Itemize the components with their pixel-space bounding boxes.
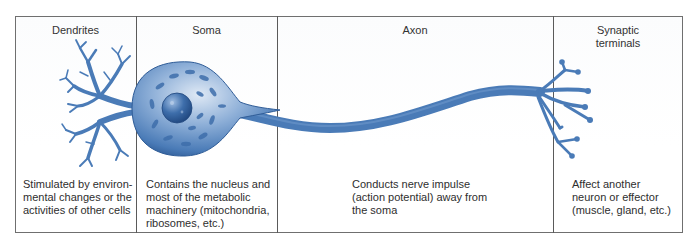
nucleus-shape [162, 93, 192, 123]
terminal-knobs [559, 59, 593, 159]
dendrites-shape [60, 40, 135, 166]
axon-shape [225, 88, 540, 128]
description-synaptic-terminals: Affect another neuron or effector (muscl… [572, 178, 683, 217]
description-soma: Contains the nucleus and most of the met… [146, 178, 277, 230]
description-axon: Conducts nerve impulse (action potential… [352, 178, 552, 217]
soma-shape [132, 62, 280, 156]
synaptic-terminals-shape [538, 62, 590, 156]
header-soma: Soma [136, 24, 277, 37]
header-axon: Axon [277, 24, 553, 37]
header-synaptic-terminals: Synaptic terminals [553, 24, 683, 50]
description-dendrites: Stimulated by environ- mental changes or… [23, 178, 136, 217]
header-dendrites: Dendrites [15, 24, 136, 37]
